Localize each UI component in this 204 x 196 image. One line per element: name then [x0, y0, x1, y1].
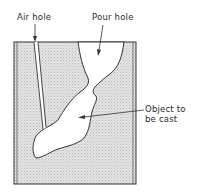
object-to-be-cast-label: Object to be cast: [145, 104, 186, 124]
casting-mould-diagram: [0, 0, 204, 196]
object-label-line1: Object to: [145, 104, 186, 114]
air-hole-label: Air hole: [17, 12, 51, 22]
air-hole-pointer: [33, 24, 37, 42]
pour-hole-label: Pour hole: [92, 12, 134, 22]
object-label-line2: be cast: [145, 114, 186, 124]
